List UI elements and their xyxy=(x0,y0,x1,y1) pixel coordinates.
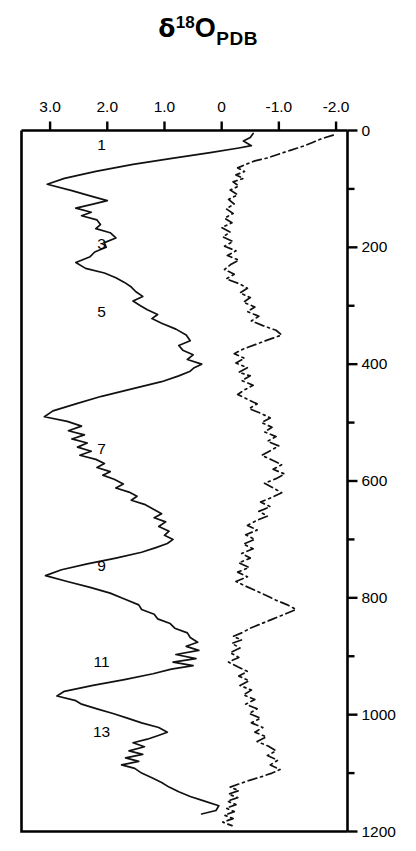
series-dash-dot-curve xyxy=(222,135,334,825)
stage-label-3: 3 xyxy=(97,235,106,253)
axes-group xyxy=(22,122,358,832)
stage-label-5: 5 xyxy=(97,303,106,321)
stage-label-13: 13 xyxy=(93,723,110,741)
series-solid-curve xyxy=(44,133,253,814)
x-tick-label-1: 2.0 xyxy=(97,98,119,116)
x-tick-label-5: -2.0 xyxy=(323,98,350,116)
y-tick-label-1: 200 xyxy=(362,238,388,256)
plot-canvas xyxy=(0,0,416,851)
x-tick-label-2: 1.0 xyxy=(154,98,176,116)
y-tick-label-3: 600 xyxy=(362,472,388,490)
y-tick-label-6: 1200 xyxy=(362,823,396,841)
stage-label-1: 1 xyxy=(97,136,106,154)
y-tick-label-4: 800 xyxy=(362,589,388,607)
y-tick-label-5: 1000 xyxy=(362,706,396,724)
isotope-stratigraphy-figure: δ18OPDB 3.02.01.00-1.0-2.0 0200400600800… xyxy=(0,0,416,851)
y-tick-label-0: 0 xyxy=(362,122,371,140)
stage-label-7: 7 xyxy=(97,440,106,458)
stage-label-9: 9 xyxy=(97,557,106,575)
stage-label-11: 11 xyxy=(94,653,110,671)
x-tick-label-0: 3.0 xyxy=(39,98,61,116)
curves-group xyxy=(44,133,333,825)
x-tick-label-4: -1.0 xyxy=(266,98,293,116)
y-tick-label-2: 400 xyxy=(362,355,388,373)
plot-frame xyxy=(22,131,348,832)
x-tick-label-3: 0 xyxy=(217,98,226,116)
